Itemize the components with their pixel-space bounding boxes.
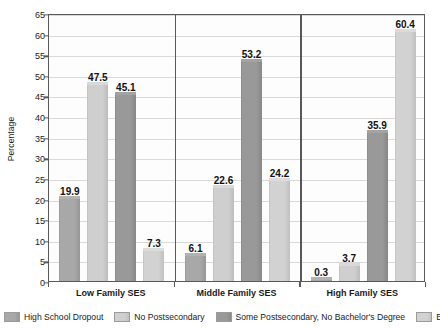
legend-label: No Postsecondary	[134, 312, 204, 322]
chart-legend: High School DropoutNo PostsecondarySome …	[4, 309, 436, 325]
x-axis-tick-mark	[425, 282, 426, 287]
legend-swatch	[416, 312, 432, 322]
y-axis-tick-mark	[44, 241, 49, 242]
legend-swatch	[114, 312, 130, 322]
bar-face	[59, 199, 80, 281]
bar: 60.4	[395, 32, 416, 281]
y-axis-tick-mark	[44, 97, 49, 98]
bar-value-label: 53.2	[242, 49, 261, 60]
bar-face	[311, 280, 332, 281]
bar: 6.1	[185, 256, 206, 281]
bar-value-label: 22.6	[214, 175, 233, 186]
gridline	[49, 15, 424, 16]
legend-swatch	[4, 312, 20, 322]
bar-value-label: 3.7	[342, 253, 356, 264]
bar-value-label: 45.1	[116, 82, 135, 93]
x-axis-group-label: Low Family SES	[76, 288, 146, 298]
bar-face	[367, 133, 388, 281]
bar-face	[213, 188, 234, 281]
plot-area: 0510152025303540455055606519.947.545.17.…	[48, 14, 425, 282]
bar-value-label: 7.3	[147, 238, 161, 249]
bar-face	[339, 266, 360, 281]
group-separator	[175, 15, 176, 281]
bar-face	[185, 256, 206, 281]
bar-face	[143, 251, 164, 281]
bar: 7.3	[143, 251, 164, 281]
y-axis-tick-mark	[44, 14, 49, 15]
bar: 3.7	[339, 266, 360, 281]
bar: 22.6	[213, 188, 234, 281]
bar-value-label: 0.3	[314, 267, 328, 278]
x-axis-group-label: High Family SES	[326, 288, 398, 298]
bar-face	[269, 181, 290, 281]
legend-label: Bachelor's Degree or Higher	[436, 312, 440, 322]
legend-label: High School Dropout	[24, 312, 103, 322]
bar-value-label: 60.4	[395, 19, 414, 30]
bar: 0.3	[311, 280, 332, 281]
bar-value-label: 6.1	[189, 243, 203, 254]
gridline	[49, 36, 424, 37]
x-axis-tick-mark	[299, 282, 300, 287]
bar-chart: Percentage 0510152025303540455055606519.…	[0, 0, 440, 328]
bar-value-label: 35.9	[367, 120, 386, 131]
bar-face	[115, 95, 136, 281]
bar-value-label: 24.2	[270, 168, 289, 179]
bar-value-label: 47.5	[88, 72, 107, 83]
bar-face	[87, 85, 108, 281]
y-axis-title: Percentage	[6, 99, 16, 179]
bar: 47.5	[87, 85, 108, 281]
bar-value-label: 19.9	[60, 186, 79, 197]
bar-face	[395, 32, 416, 281]
y-axis-tick-mark	[44, 220, 49, 221]
y-axis-tick-mark	[44, 117, 49, 118]
y-axis-tick-mark	[44, 179, 49, 180]
y-axis-tick-mark	[44, 138, 49, 139]
legend-swatch	[216, 312, 232, 322]
x-axis-tick-mark	[174, 282, 175, 287]
legend-item[interactable]: Some Postsecondary, No Bachelor's Degree	[216, 312, 406, 322]
bar-face	[241, 62, 262, 281]
bar: 35.9	[367, 133, 388, 281]
gridline	[49, 56, 424, 57]
legend-item[interactable]: No Postsecondary	[114, 312, 204, 322]
legend-item[interactable]: High School Dropout	[4, 312, 103, 322]
y-axis-tick-mark	[44, 262, 49, 263]
y-axis-tick-mark	[44, 159, 49, 160]
y-axis-tick-mark	[44, 200, 49, 201]
bar: 45.1	[115, 95, 136, 281]
legend-label: Some Postsecondary, No Bachelor's Degree	[236, 312, 406, 322]
bar: 53.2	[241, 62, 262, 281]
legend-item[interactable]: Bachelor's Degree or Higher	[416, 312, 440, 322]
y-axis-tick-mark	[44, 76, 49, 77]
x-axis-group-label: Middle Family SES	[196, 288, 276, 298]
x-axis-tick-mark	[48, 282, 49, 287]
bar: 24.2	[269, 181, 290, 281]
y-axis-tick-mark	[44, 56, 49, 57]
bar: 19.9	[59, 199, 80, 281]
y-axis-tick-mark	[44, 35, 49, 36]
group-separator	[300, 15, 301, 281]
